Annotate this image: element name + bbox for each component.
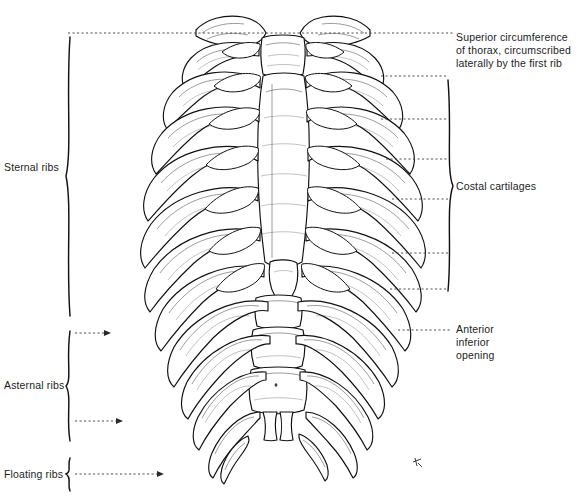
label-superior-circumference: Superior circumference of thorax, circum… bbox=[456, 31, 579, 71]
xiphoid-process bbox=[269, 260, 298, 299]
artist-signature-mark bbox=[413, 458, 422, 467]
rib-cage-illustration bbox=[0, 0, 579, 497]
label-floating-ribs: Floating ribs bbox=[4, 468, 88, 481]
anatomical-figure-thorax: Superior circumference of thorax, circum… bbox=[0, 0, 579, 497]
label-anterior-inferior-opening: Anterior inferior opening bbox=[456, 323, 566, 363]
label-sternal-ribs: Sternal ribs bbox=[4, 161, 84, 174]
manubrium bbox=[261, 35, 305, 78]
label-asternal-ribs: Asternal ribs bbox=[4, 379, 88, 392]
sternum-body bbox=[258, 73, 310, 267]
label-costal-cartilages: Costal cartilages bbox=[456, 180, 574, 193]
